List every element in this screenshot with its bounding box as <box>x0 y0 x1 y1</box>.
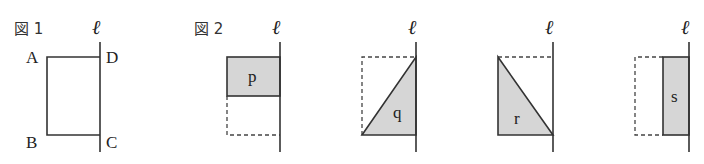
panel-s: ℓ s <box>635 15 690 152</box>
figure-2: 図 2 ℓ p ℓ q ℓ r ℓ <box>194 15 690 152</box>
panel-r: ℓ r <box>498 15 554 152</box>
vertex-label-c: C <box>106 133 117 152</box>
dashed-outline <box>635 57 663 135</box>
axis-label-l: ℓ <box>545 15 554 39</box>
axis-label-l: ℓ <box>272 15 281 39</box>
region-label-q: q <box>393 103 402 122</box>
diagram-canvas: 図 1 ℓ A B C D 図 2 ℓ p ℓ q ℓ <box>0 0 704 164</box>
axis-label-l: ℓ <box>92 15 101 39</box>
shaded-region-r <box>498 57 553 135</box>
rectangle-abcd <box>47 57 100 135</box>
shaded-region-q <box>362 57 416 135</box>
axis-label-l: ℓ <box>681 15 690 39</box>
region-label-p: p <box>248 67 257 86</box>
region-label-r: r <box>514 109 520 128</box>
vertex-label-d: D <box>106 48 118 67</box>
region-label-s: s <box>671 87 678 106</box>
figure-1-title: 図 1 <box>14 20 43 38</box>
dashed-outline <box>227 96 280 135</box>
axis-label-l: ℓ <box>408 15 417 39</box>
vertex-label-b: B <box>26 133 37 152</box>
figure-2-title: 図 2 <box>194 20 223 38</box>
panel-q: ℓ q <box>362 15 417 152</box>
figure-1: 図 1 ℓ A B C D <box>14 15 118 152</box>
vertex-label-a: A <box>26 48 39 67</box>
panel-p: ℓ p <box>227 15 281 152</box>
